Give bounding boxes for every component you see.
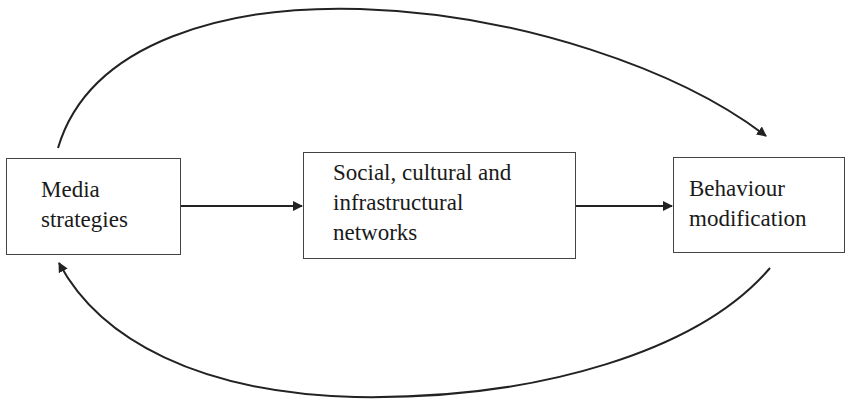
node-label-line: modification (689, 204, 844, 234)
node-social-cultural-infrastructural-networks: Social, cultural and infrastructural net… (303, 152, 576, 259)
node-label-line: networks (333, 218, 575, 248)
node-label-line: infrastructural (333, 188, 575, 218)
arrow-behaviour-to-media-curved (59, 263, 770, 397)
arrow-media-to-behaviour-curved (58, 9, 766, 148)
node-label-line: Media (41, 175, 180, 205)
node-label-line: strategies (41, 205, 180, 235)
node-label-line: Social, cultural and (333, 158, 575, 188)
node-media-strategies: Media strategies (6, 158, 181, 255)
node-label-line: Behaviour (689, 174, 844, 204)
node-behaviour-modification: Behaviour modification (673, 157, 845, 253)
